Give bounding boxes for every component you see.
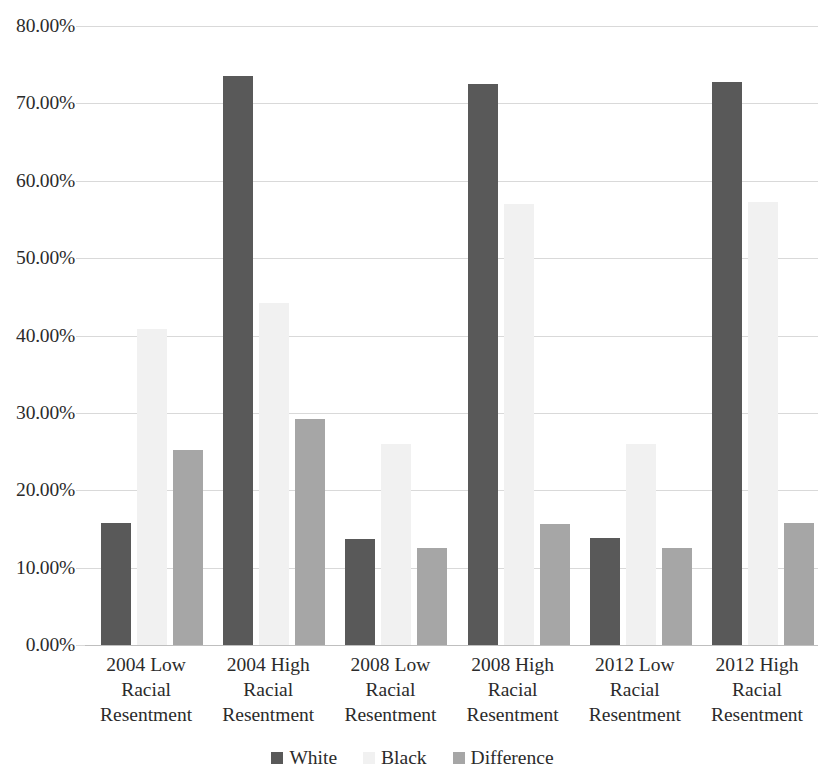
- bar-white[interactable]: [101, 523, 131, 645]
- y-axis-tick-mark: [76, 26, 85, 27]
- plot-area: [85, 26, 818, 645]
- x-axis-category-label: 2012 HighRacialResentment: [696, 652, 818, 727]
- bar-white[interactable]: [712, 82, 742, 645]
- bar-black[interactable]: [748, 202, 778, 645]
- bar-group: [85, 26, 207, 645]
- legend-item[interactable]: White: [271, 748, 337, 768]
- y-axis-tick-mark: [76, 568, 85, 569]
- bar-black[interactable]: [137, 329, 167, 645]
- legend-swatch-icon: [271, 752, 283, 764]
- x-axis-category-label-line: Racial: [86, 677, 206, 702]
- x-axis-category-label-line: Resentment: [697, 702, 817, 727]
- y-axis-tick-mark: [76, 181, 85, 182]
- bar-white[interactable]: [468, 84, 498, 645]
- bar-black[interactable]: [626, 444, 656, 645]
- x-axis-category-label-line: Resentment: [575, 702, 695, 727]
- bar-group: [574, 26, 696, 645]
- x-axis-category-label-line: 2012 Low: [575, 652, 695, 677]
- legend-item[interactable]: Black: [363, 748, 426, 768]
- y-axis-tick-label: 50.00%: [16, 247, 75, 269]
- bar-white[interactable]: [223, 76, 253, 645]
- x-axis-category-label-line: Resentment: [208, 702, 328, 727]
- y-axis-tick-label: 80.00%: [16, 15, 75, 37]
- bars-layer: [85, 26, 818, 645]
- x-axis-category-label-line: 2004 Low: [86, 652, 206, 677]
- y-axis-tick-label: 40.00%: [16, 325, 75, 347]
- bar-white[interactable]: [590, 538, 620, 645]
- y-axis-tick-label: 70.00%: [16, 92, 75, 114]
- bar-difference[interactable]: [295, 419, 325, 645]
- bar-group: [207, 26, 329, 645]
- bar-difference[interactable]: [417, 548, 447, 645]
- bar-difference[interactable]: [662, 548, 692, 645]
- y-axis-tick-label: 30.00%: [16, 402, 75, 424]
- bar-group: [452, 26, 574, 645]
- x-axis-category-label-line: Resentment: [86, 702, 206, 727]
- bar-white[interactable]: [345, 539, 375, 645]
- x-axis-category-label-line: Racial: [575, 677, 695, 702]
- x-axis-category-label: 2008 LowRacialResentment: [329, 652, 451, 727]
- y-axis-tick-mark: [76, 336, 85, 337]
- x-axis-category-label-line: Racial: [330, 677, 450, 702]
- x-axis-category-label: 2012 LowRacialResentment: [574, 652, 696, 727]
- x-axis-category-label-line: Racial: [697, 677, 817, 702]
- x-axis-category-label-line: Resentment: [453, 702, 573, 727]
- x-axis-category-label-line: 2008 High: [453, 652, 573, 677]
- y-axis-tick-mark: [76, 490, 85, 491]
- y-axis-tick-label: 10.00%: [16, 557, 75, 579]
- x-axis-category-label-line: Racial: [208, 677, 328, 702]
- legend-label: Difference: [471, 748, 554, 768]
- legend-item[interactable]: Difference: [453, 748, 554, 768]
- x-axis-category-label: 2004 HighRacialResentment: [207, 652, 329, 727]
- bar-group: [329, 26, 451, 645]
- x-axis-categories: 2004 LowRacialResentment2004 HighRacialR…: [85, 652, 818, 727]
- legend-swatch-icon: [453, 752, 465, 764]
- x-axis-category-label-line: 2012 High: [697, 652, 817, 677]
- bar-black[interactable]: [381, 444, 411, 645]
- x-axis-category-label-line: 2008 Low: [330, 652, 450, 677]
- y-axis-tick-label: 0.00%: [26, 634, 75, 656]
- y-axis-tick-mark: [76, 103, 85, 104]
- bar-black[interactable]: [259, 303, 289, 645]
- legend-label: Black: [381, 748, 426, 768]
- y-axis-tick-mark: [76, 645, 85, 646]
- x-axis-category-label: 2008 HighRacialResentment: [452, 652, 574, 727]
- y-axis-tick-mark: [76, 258, 85, 259]
- y-axis-tick-label: 60.00%: [16, 170, 75, 192]
- chart-legend: WhiteBlackDifference: [0, 748, 825, 768]
- legend-swatch-icon: [363, 752, 375, 764]
- axis-baseline: [85, 645, 818, 646]
- bar-black[interactable]: [504, 204, 534, 645]
- y-axis-tick-mark: [76, 413, 85, 414]
- x-axis-category-label: 2004 LowRacialResentment: [85, 652, 207, 727]
- x-axis-category-label-line: Racial: [453, 677, 573, 702]
- legend-label: White: [289, 748, 337, 768]
- y-axis-tick-label: 20.00%: [16, 479, 75, 501]
- bar-chart: 0.00%10.00%20.00%30.00%40.00%50.00%60.00…: [0, 0, 825, 778]
- bar-difference[interactable]: [784, 523, 814, 645]
- x-axis-category-label-line: Resentment: [330, 702, 450, 727]
- bar-difference[interactable]: [540, 524, 570, 645]
- bar-difference[interactable]: [173, 450, 203, 645]
- x-axis-category-label-line: 2004 High: [208, 652, 328, 677]
- bar-group: [696, 26, 818, 645]
- y-axis: 0.00%10.00%20.00%30.00%40.00%50.00%60.00…: [0, 0, 85, 660]
